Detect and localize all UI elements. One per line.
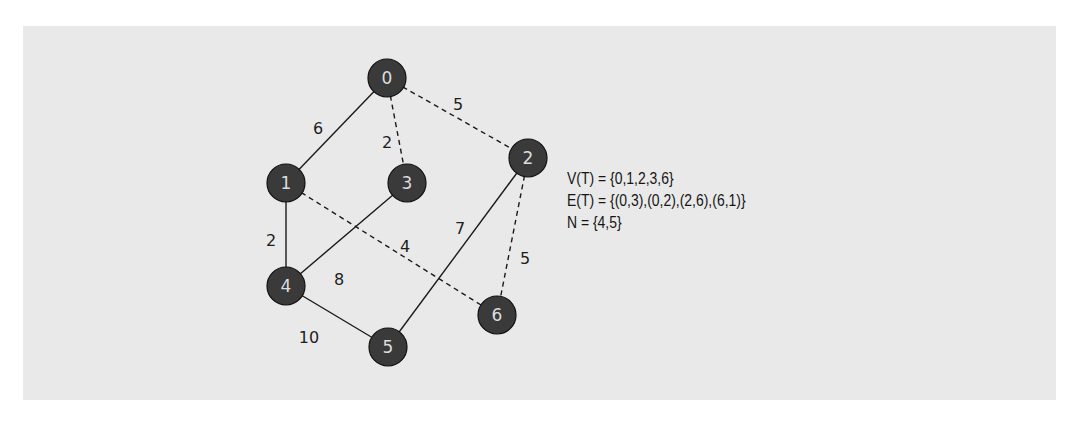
graph-canvas: 6252847510 0123456 <box>0 0 1079 427</box>
nodes-layer: 0123456 <box>267 59 547 366</box>
edge-weight-label: 2 <box>266 231 276 250</box>
node-label: 2 <box>523 148 534 168</box>
edge-set-text: E(T) = {(0,3),(0,2),(2,6),(6,1)} <box>567 190 746 212</box>
edge-weight-label: 8 <box>334 270 344 289</box>
node-label: 0 <box>382 68 393 88</box>
tree-info: V(T) = {0,1,2,3,6} E(T) = {(0,3),(0,2),(… <box>567 168 746 234</box>
edge-weight-label: 5 <box>520 249 530 268</box>
node-label: 3 <box>402 173 413 193</box>
node-5: 5 <box>369 328 407 366</box>
edge-weight-label: 4 <box>400 237 410 256</box>
node-0: 0 <box>368 59 406 97</box>
edge-weight-label: 5 <box>453 95 463 114</box>
edge-0-2 <box>387 78 528 158</box>
node-1: 1 <box>267 164 305 202</box>
node-label: 6 <box>492 305 503 325</box>
node-6: 6 <box>478 296 516 334</box>
node-label: 5 <box>383 337 394 357</box>
node-4: 4 <box>267 267 305 305</box>
edge-weight-label: 7 <box>455 219 465 238</box>
node-2: 2 <box>509 139 547 177</box>
edge-weight-label: 2 <box>382 133 392 152</box>
edge-0-1 <box>286 78 387 183</box>
next-set-text: N = {4,5} <box>567 212 746 234</box>
vertex-set-text: V(T) = {0,1,2,3,6} <box>567 168 746 190</box>
node-label: 4 <box>281 276 292 296</box>
node-3: 3 <box>388 164 426 202</box>
edge-3-4 <box>286 183 407 286</box>
edge-weight-label: 6 <box>313 119 323 138</box>
edge-weight-label: 10 <box>299 328 319 347</box>
edge-1-6 <box>286 183 497 315</box>
edge-2-6 <box>497 158 528 315</box>
node-label: 1 <box>281 173 292 193</box>
